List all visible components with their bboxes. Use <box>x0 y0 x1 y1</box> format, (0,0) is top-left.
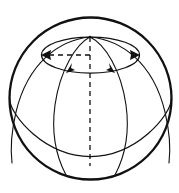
north-pole-vertex-point <box>89 36 91 38</box>
sphere-diagram-canvas <box>0 0 179 193</box>
sphere-diagram-figure <box>0 0 179 193</box>
